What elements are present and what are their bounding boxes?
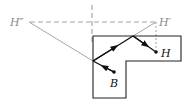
label-h-double-prime: H″ xyxy=(9,16,25,29)
ray-arrow-2 xyxy=(93,47,115,61)
ray-arrow-3 xyxy=(133,36,146,45)
label-h-prime: H′ xyxy=(158,16,172,29)
point-h xyxy=(154,50,158,54)
construction-line-h-prime xyxy=(133,22,156,36)
label-h: H xyxy=(160,47,171,60)
point-b xyxy=(112,70,116,74)
construction-line-h-double-prime xyxy=(29,22,93,61)
label-b: B xyxy=(109,77,118,90)
l-shaped-region xyxy=(93,36,181,98)
reflection-diagram: H″ H′ H B xyxy=(0,0,191,109)
